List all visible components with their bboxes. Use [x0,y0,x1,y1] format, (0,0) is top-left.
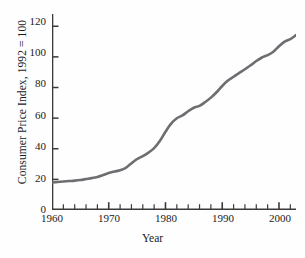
x-tick-label: 1960 [30,213,74,224]
y-tick-label: 120 [16,16,46,27]
y-tick-label: 40 [16,141,46,152]
cpi-series-line [52,35,296,182]
plot-area [52,14,296,210]
x-axis-tick-labels: 1960 1970 1980 1990 2000 [52,213,296,231]
x-axis-title: Year [0,232,305,244]
y-tick-label: 20 [16,173,46,184]
y-tick-label: 80 [16,78,46,89]
chart-figure: Consumer Price Index, 1992 = 100 120 100… [0,0,305,258]
y-tick-label: 100 [16,47,46,58]
x-axis-tick-marks [52,202,290,209]
x-tick-label: 1970 [87,213,131,224]
x-tick-label: 1980 [144,213,188,224]
x-tick-label: 1990 [201,213,245,224]
x-tick-label: 2000 [258,213,302,224]
y-tick-label: 60 [16,110,46,121]
